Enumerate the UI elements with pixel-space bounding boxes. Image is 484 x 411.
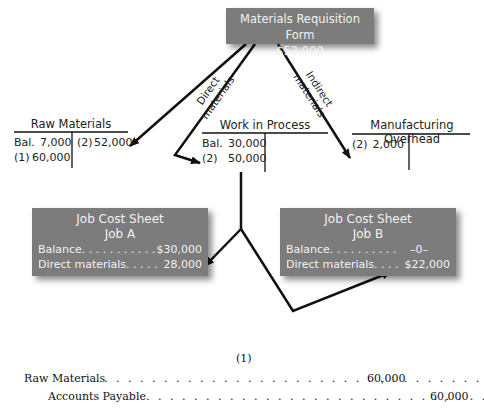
row-label: Direct materials. . . . <box>286 257 399 272</box>
raw-materials-debit-ref: Bal. <box>14 136 35 149</box>
job-name: Job A <box>38 227 202 242</box>
raw-materials-debit-amount: 7,000 <box>40 136 68 149</box>
wip-title: Work in Process <box>202 118 328 132</box>
overhead-debit-ref: (2) <box>352 138 368 151</box>
row-label: Balance. . . . . . . . . . . <box>38 242 155 257</box>
row-value: $22,000 <box>405 257 451 272</box>
job-row: Balance. . . . . . . . . . . $30,000 <box>38 242 202 257</box>
row-value: –0– <box>410 242 450 257</box>
job-sheet-title: Job Cost Sheet <box>38 212 202 227</box>
raw-materials-credit-amount: 52,000 <box>94 136 133 149</box>
journal-debit-amount: 60,000 <box>367 372 406 385</box>
arrow-to-job-a <box>205 229 241 266</box>
job-row: Balance. . . . . . . . . . –0– <box>286 242 450 257</box>
job-row: Direct materials. . . . . 28,000 <box>38 257 202 272</box>
journal-credit-amount: 60,000 <box>430 390 469 403</box>
row-label: Direct materials. . . . . <box>38 257 158 272</box>
raw-materials-title: Raw Materials <box>14 117 128 131</box>
row-value: $30,000 <box>157 242 203 257</box>
row-value: 28,000 <box>164 257 203 272</box>
wip-debit-amount: 30,000 <box>228 137 262 150</box>
row-label: Balance. . . . . . . . . . <box>286 242 396 257</box>
requisition-amount: $52,000 <box>226 43 374 59</box>
raw-materials-debit-amount: 60,000 <box>32 151 68 164</box>
raw-materials-credit-ref: (2) <box>77 136 93 149</box>
raw-materials-debit-ref: (1) <box>14 151 30 164</box>
requisition-title: Materials Requisition Form <box>226 11 374 43</box>
job-name: Job B <box>286 227 450 242</box>
wip-debit-ref: (2) <box>202 152 218 165</box>
job-row: Direct materials. . . . $22,000 <box>286 257 450 272</box>
wip-debit-amount: 50,000 <box>228 152 262 165</box>
journal-debit-leader: . . . . . . . . . . . . . . . . . . . . … <box>104 372 484 385</box>
flow-arrows <box>0 0 484 411</box>
journal-entry-number: (1) <box>236 352 252 365</box>
overhead-debit-amount: 2,000 <box>370 138 404 151</box>
materials-requisition-form: Materials Requisition Form $52,000 <box>226 8 374 44</box>
job-cost-sheet-b: Job Cost Sheet Job B Balance. . . . . . … <box>280 208 456 276</box>
journal-credit-account: Accounts Payable <box>48 390 146 403</box>
job-sheet-title: Job Cost Sheet <box>286 212 450 227</box>
job-cost-sheet-a: Job Cost Sheet Job A Balance. . . . . . … <box>32 208 208 276</box>
wip-debit-ref: Bal. <box>202 137 223 150</box>
journal-debit-account: Raw Materials <box>24 372 105 385</box>
